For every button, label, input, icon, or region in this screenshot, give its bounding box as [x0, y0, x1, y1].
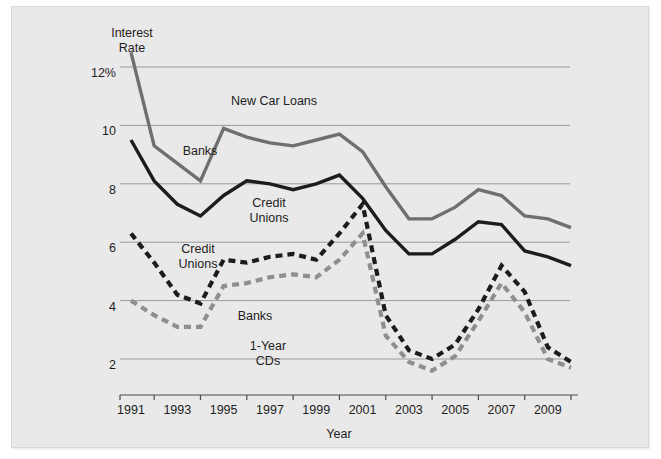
- chart-figure: Interest Rate Year 12%108642 19911993199…: [0, 0, 661, 459]
- x-tick-label: 1993: [152, 403, 202, 417]
- series-annotation-label: New Car Loans: [214, 94, 334, 109]
- x-tick-label: 1995: [199, 403, 249, 417]
- series-line: [131, 52, 571, 227]
- series-annotation-label: Banks: [140, 144, 260, 159]
- y-tick-label: 10: [68, 124, 116, 138]
- y-tick-label: 8: [68, 183, 116, 197]
- series-annotation-label: Credit Unions: [209, 196, 329, 226]
- y-tick-label: 6: [68, 241, 116, 255]
- x-tick-label: 1999: [291, 403, 341, 417]
- series-annotation-label: Banks: [195, 309, 315, 324]
- x-tick-label: 2005: [430, 403, 480, 417]
- y-axis-title: Interest Rate: [101, 26, 163, 56]
- series-annotation-label: Credit Unions: [138, 242, 258, 272]
- gridlines-group: [120, 67, 570, 359]
- x-tick-label: 2003: [384, 403, 434, 417]
- x-axis-group: [120, 395, 578, 400]
- chart-plate: Interest Rate Year 12%108642 19911993199…: [11, 6, 649, 448]
- x-tick-label: 2001: [338, 403, 388, 417]
- y-tick-label: 2: [68, 358, 116, 372]
- y-tick-label: 12%: [68, 66, 116, 80]
- x-tick-label: 2009: [523, 403, 573, 417]
- x-tick-label: 1997: [245, 403, 295, 417]
- x-axis-title: Year: [309, 427, 369, 442]
- y-tick-label: 4: [68, 300, 116, 314]
- x-tick-label: 2007: [477, 403, 527, 417]
- x-tick-label: 1991: [106, 403, 156, 417]
- series-annotation-label: 1-Year CDs: [208, 339, 328, 369]
